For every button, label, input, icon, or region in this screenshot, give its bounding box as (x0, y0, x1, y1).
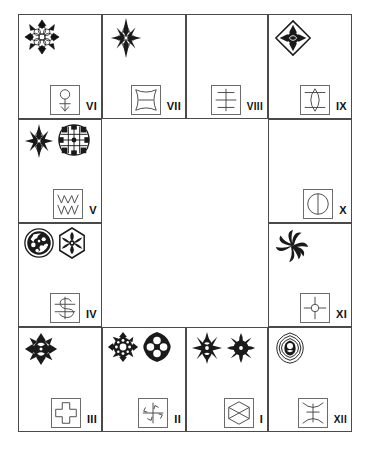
numeral-xii: XII (334, 415, 347, 428)
eight-point-star-dark-icon (23, 123, 55, 159)
footer-viii: VIII (211, 85, 263, 115)
numeral-iv: IV (86, 309, 97, 323)
cell-v[interactable]: V (18, 119, 102, 223)
cell-vi[interactable]: VI (18, 14, 102, 119)
ring-diagram-figure: VI (0, 0, 370, 454)
diamond-framed-rosette-dark-icon (273, 18, 313, 58)
round-petal-rosette-dark-icon (225, 331, 257, 365)
numeral-xi: XI (336, 309, 347, 323)
cogwheel-rosette-dark-icon (107, 331, 139, 363)
circle-with-vertical-diameter-icon (303, 189, 333, 219)
cell-xi[interactable]: XI (268, 223, 352, 327)
cell-i[interactable]: I (186, 327, 268, 432)
footer-ix: IX (300, 85, 347, 115)
cell-xii[interactable]: XII (268, 327, 352, 432)
spiky-floral-burst-dark-icon (191, 331, 223, 365)
quartered-square-with-center-circle-icon (300, 293, 330, 323)
quatrefoil-medallion-dark-icon (141, 331, 173, 363)
footer-vi: VI (50, 85, 97, 115)
square-with-s-curve-and-bar-icon (50, 293, 80, 323)
footer-v: V (53, 189, 97, 219)
cell-ix[interactable]: IX (268, 14, 352, 119)
motif-cluster-iii (23, 331, 59, 367)
concave-square-with-horizontal-bar-icon (131, 85, 161, 115)
footer-ii: II (138, 398, 181, 428)
footer-x: X (303, 189, 347, 219)
footer-i: I (224, 398, 263, 428)
motif-cluster-ix (273, 18, 313, 58)
numeral-vi: VI (86, 101, 97, 115)
circular-yin-mottled-disc-icon (23, 227, 55, 259)
concentric-lobed-medallion-icon (273, 331, 307, 365)
motif-cluster-xii (273, 331, 307, 365)
numeral-vii: VII (167, 101, 181, 115)
footer-xii: XII (298, 398, 347, 428)
square-with-double-zigzag-icon (53, 189, 83, 219)
numeral-x: X (339, 205, 347, 219)
cell-x[interactable]: X (268, 119, 352, 223)
cell-ii[interactable]: II (102, 327, 186, 432)
swirl-pinwheel-dark-icon (273, 227, 311, 265)
greek-cross-outline-icon (51, 398, 81, 428)
motif-cluster-ii (107, 331, 173, 363)
cell-iv[interactable]: IV (18, 223, 102, 327)
numeral-v: V (89, 205, 97, 219)
footer-iv: IV (50, 293, 97, 323)
hexagonal-floral-medallion-icon (57, 227, 87, 259)
numeral-i: I (260, 414, 263, 428)
star-burst-floral-dark-icon (23, 331, 59, 367)
motif-cluster-vi (23, 18, 61, 56)
motif-cluster-xi (273, 227, 311, 265)
square-with-crossed-diamond-icon (224, 398, 254, 428)
numeral-iii: III (87, 414, 97, 428)
eight-point-star-rosette-outline-icon (23, 18, 61, 56)
motif-cluster-v (23, 123, 91, 159)
numeral-viii: VIII (247, 102, 263, 115)
footer-iii: III (51, 398, 97, 428)
numeral-ix: IX (336, 101, 347, 115)
footer-vii: VII (131, 85, 181, 115)
motif-cluster-iv (23, 227, 87, 259)
square-with-vertical-lens-icon (300, 85, 330, 115)
motif-cluster-i (191, 331, 257, 365)
footer-xi: XI (300, 293, 347, 323)
square-with-hourglass-and-crossbar-icon (298, 398, 328, 428)
cell-iii[interactable]: III (18, 327, 102, 432)
square-with-four-arrows-cross-icon (138, 398, 168, 428)
cross-divided-square-icon (211, 85, 241, 115)
motif-cluster-vii (107, 18, 145, 58)
four-point-spiky-star-dark-icon (107, 18, 145, 58)
circle-on-stem-with-anchor-arrow-icon (50, 85, 80, 115)
cell-viii[interactable]: VIII (186, 14, 268, 119)
cell-vii[interactable]: VII (102, 14, 186, 119)
numeral-ii: II (174, 414, 181, 428)
grid-filled-round-medallion-icon (57, 123, 91, 157)
